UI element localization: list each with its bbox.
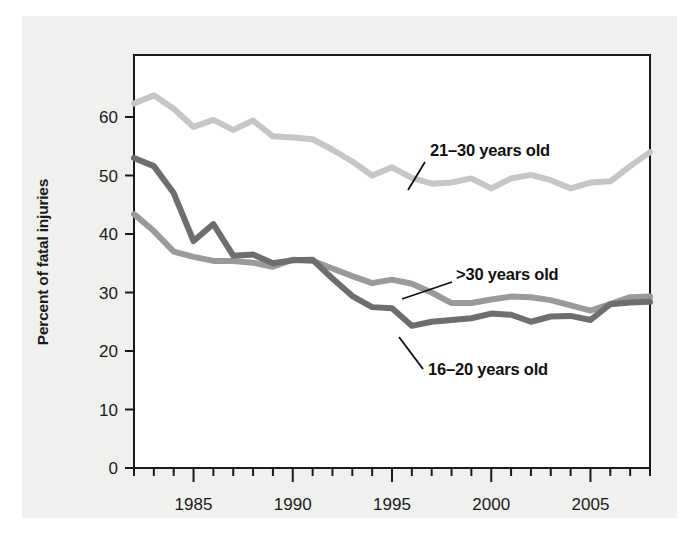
x-tick-label: 2000 [472,495,510,514]
line-chart: 0102030405060 19851990199520002005 Perce… [0,0,699,541]
figure-container: 0102030405060 19851990199520002005 Perce… [0,0,699,541]
x-tick-label: 1985 [175,495,213,514]
y-tick-label: 40 [99,225,118,244]
x-axis-tick-labels: 19851990199520002005 [175,495,610,514]
y-tick-label: 10 [99,401,118,420]
series-annotation-label: >30 years old [456,265,558,283]
series-annotation-label: 16–20 years old [428,360,548,378]
x-axis-ticks [134,468,650,482]
y-axis-label: Percent of fatal injuries [34,179,51,345]
y-axis-ticks [125,117,134,468]
y-tick-label: 0 [109,459,118,478]
y-tick-label: 20 [99,342,118,361]
y-tick-label: 60 [99,108,118,127]
x-tick-label: 1990 [274,495,312,514]
series-annotation-label: 21–30 years old [430,141,550,159]
y-axis-tick-labels: 0102030405060 [99,108,118,478]
y-tick-label: 50 [99,167,118,186]
x-tick-label: 2005 [572,495,610,514]
y-tick-label: 30 [99,284,118,303]
x-tick-label: 1995 [373,495,411,514]
